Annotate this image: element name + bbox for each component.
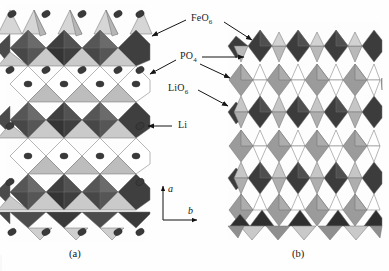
crystal-structure-figure: FeO6 PO4 LiO6 Li a b (a) (b) [0, 0, 389, 271]
label-li: Li [178, 119, 187, 130]
axis-label-b: b [188, 205, 193, 216]
scan-artifact [0, 255, 389, 271]
axis-label-a: a [168, 183, 173, 194]
structure-canvas [0, 0, 389, 271]
lio6-arrow [198, 90, 228, 106]
panel-a-structure [0, 4, 152, 242]
label-feo6: FeO6 [191, 12, 213, 26]
panel-b-structure [228, 22, 382, 240]
label-po4: PO4 [180, 50, 197, 64]
po4-arrow-down [200, 64, 230, 78]
feo6-arrow-left [152, 20, 186, 36]
po4-arrow-left [150, 60, 176, 74]
label-lio6: LiO6 [168, 82, 188, 96]
